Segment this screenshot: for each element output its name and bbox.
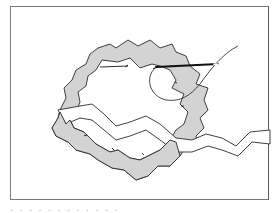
thread-line (100, 66, 128, 67)
ric-rac-ring-front (52, 112, 180, 180)
figure-caption: · · · · · · · · · · · · (10, 206, 270, 213)
ric-rac-illustration (0, 0, 280, 213)
